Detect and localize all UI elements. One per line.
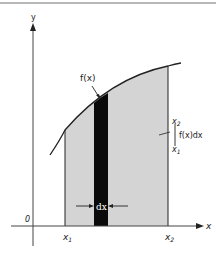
- dx-label: dx: [96, 202, 107, 212]
- origin-label: 0: [25, 215, 30, 224]
- integral-upper-limit: x2: [171, 117, 181, 127]
- integral-integrand: f(x)dx: [179, 131, 203, 140]
- y-axis-label: y: [31, 13, 36, 22]
- y-axis-arrow-icon: [30, 23, 36, 31]
- curve-label: f(x): [80, 73, 96, 83]
- shaded-area: [65, 66, 168, 226]
- x-axis-arrow-icon: [196, 223, 204, 229]
- x2-label: x2: [164, 232, 174, 243]
- integral-diagram: y x 0 f(x) dx x1 x2 x2 f(x)dx x1: [0, 0, 216, 254]
- integral-lower-limit: x1: [171, 145, 181, 155]
- x-axis-label: x: [205, 221, 212, 231]
- x1-label: x1: [62, 232, 72, 243]
